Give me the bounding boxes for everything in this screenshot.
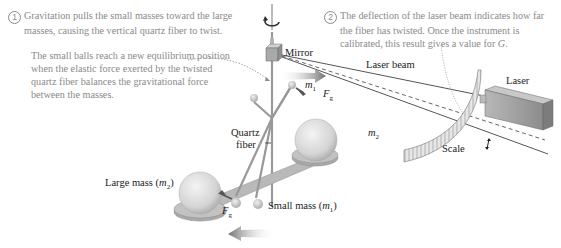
small-mass-back [250, 94, 258, 102]
m1-symbol: m [305, 79, 313, 90]
step-1-badge: 1 [8, 11, 21, 24]
small-mass-label-text: Small mass ( [268, 200, 322, 211]
annotation-1-line-1: Gravitation pulls the small masses towar… [24, 10, 232, 21]
fg-bottom-subscript: g [228, 211, 232, 219]
annotation-1: 1Gravitation pulls the small masses towa… [8, 9, 232, 37]
rotation-arrow-icon [263, 4, 279, 30]
mirror-block [266, 44, 282, 61]
large-mass-label-text: Large mass ( [105, 177, 159, 188]
annotation-2-line-1: The deflection of the laser beam indicat… [340, 10, 544, 21]
m1-label: m1 [305, 80, 316, 93]
annotation-1-detail-line-4: between the masses. [31, 88, 230, 101]
large-mass-left [179, 172, 221, 214]
large-mass-label: Large mass (m2) [105, 178, 174, 191]
annotation-1-detail-line-1: The small balls reach a new equilibrium … [31, 49, 230, 62]
annotation-1-line-2: masses, causing the vertical quartz fibe… [8, 24, 232, 37]
m2-subscript: 2 [376, 133, 380, 141]
annotation-1-detail-line-2: when the elastic force exerted by the tw… [31, 62, 230, 75]
quartz-fiber-label-line-1: Quartz [231, 127, 260, 139]
rotation-direction-arrow-bottom [228, 226, 275, 241]
mirror-label: Mirror [285, 48, 313, 59]
fg-top-subscript: g [329, 94, 333, 102]
small-mass-right [288, 81, 296, 89]
large-mass-label-close: ) [170, 177, 174, 188]
annotation-1-detail: The small balls reach a new equilibrium … [31, 49, 230, 101]
quartz-fiber-label: Quartz fiber [231, 127, 260, 151]
small-mass-label-close: ) [333, 200, 337, 211]
step-2-badge: 2 [324, 11, 337, 24]
laser-label: Laser [506, 76, 529, 87]
m2-symbol: m [368, 127, 376, 138]
large-mass-symbol: m [159, 177, 167, 188]
quartz-fiber-label-line-2: fiber [231, 139, 260, 151]
small-mass-label: Small mass (m1) [268, 201, 337, 214]
large-mass-right [295, 119, 337, 161]
annotation-2-period: . [505, 38, 508, 49]
small-mass-front [253, 199, 263, 209]
annotation-1-detail-line-3: quartz fiber balances the gravitational … [31, 75, 230, 88]
m2-label: m2 [368, 128, 379, 141]
fg-label-bottom: Fg [222, 206, 232, 219]
laser-beam-label: Laser beam [366, 60, 415, 71]
cavendish-experiment-diagram: 1Gravitation pulls the small masses towa… [0, 0, 561, 248]
laser-device [480, 86, 553, 130]
fg-label-top: Fg [323, 89, 333, 102]
annotation-2: 2The deflection of the laser beam indica… [324, 9, 544, 50]
annotation-2-line-3: calibrated, this result gives a value fo… [340, 38, 498, 49]
scale-label: Scale [442, 144, 465, 155]
small-mass-symbol: m [322, 200, 330, 211]
m1-subscript: 1 [313, 85, 317, 93]
annotation-2-line-2: the fiber has twisted. Once the instrume… [324, 24, 544, 37]
rotation-direction-arrow-top [278, 69, 326, 83]
small-mass-left [231, 198, 241, 208]
